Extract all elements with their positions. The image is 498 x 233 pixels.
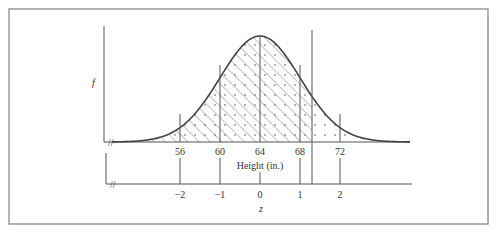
- axis-break-mark-bottom: //: [110, 179, 116, 190]
- height-tick-56: 56: [175, 146, 185, 157]
- shaded-regions: [112, 20, 364, 145]
- z-tick-neg2: −2: [175, 189, 186, 200]
- height-tick-64: 64: [255, 146, 265, 157]
- height-tick-68: 68: [295, 146, 305, 157]
- x-axis-label: Height (in.): [237, 160, 284, 172]
- normal-distribution-figure: // // f 56 60 64 68 72 Height (in.) −2 −…: [0, 0, 498, 233]
- z-tick-0: 0: [258, 189, 263, 200]
- z-tick-neg1: −1: [215, 189, 226, 200]
- height-tick-72: 72: [335, 146, 345, 157]
- z-axis-label: z: [258, 203, 263, 214]
- height-tick-60: 60: [215, 146, 225, 157]
- y-axis-label: f: [92, 77, 96, 88]
- z-tick-2: 2: [338, 189, 343, 200]
- hatched-region: [112, 20, 312, 145]
- z-tick-1: 1: [298, 189, 303, 200]
